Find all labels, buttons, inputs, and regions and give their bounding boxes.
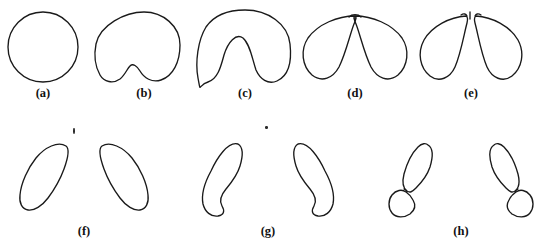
figure-root: (a) (b) (c) (d) (e) (f) (g) (h) — [0, 0, 554, 245]
panel-label-f: (f) — [78, 224, 91, 239]
panel-label-b: (b) — [136, 86, 151, 101]
shape-d-pinching-lobes — [303, 15, 407, 79]
scan-speck-1 — [73, 128, 75, 134]
panel-label-h: (h) — [453, 224, 468, 239]
scan-speck-2 — [265, 126, 268, 129]
panel-label-a: (a) — [36, 86, 51, 101]
panel-label-c: (c) — [238, 86, 252, 101]
shape-g-right-lobe — [294, 144, 334, 216]
shape-g-left-lobe — [202, 144, 242, 216]
shape-h-right-lobe — [490, 144, 533, 217]
panel-label-g: (g) — [261, 224, 276, 239]
shape-e-separated-lobes — [420, 12, 522, 79]
shape-h-left-lobe — [389, 144, 432, 217]
shape-f-left-lobe — [20, 144, 68, 210]
shape-evolution-drawing — [0, 0, 554, 245]
panel-label-d: (d) — [347, 86, 362, 101]
shape-f-right-lobe — [100, 144, 148, 210]
panel-label-e: (e) — [464, 86, 478, 101]
shape-c-deep-notch — [197, 10, 291, 87]
shape-a-circle — [8, 12, 78, 82]
shape-b-notched-circle — [95, 12, 180, 82]
